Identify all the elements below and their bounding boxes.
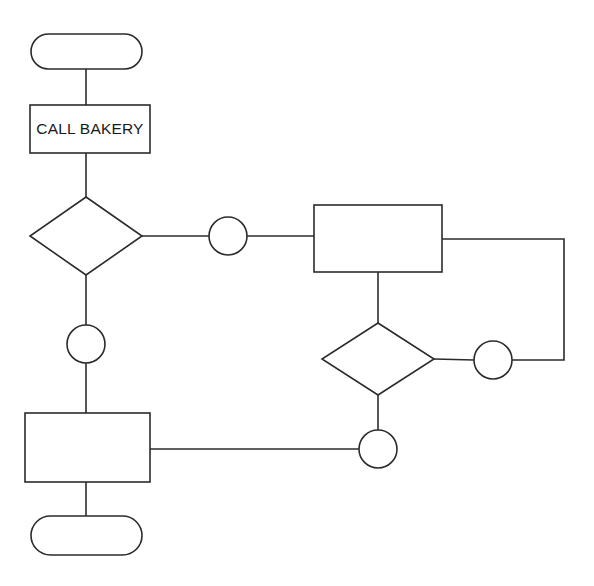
- node-connector-left-mid[interactable]: [67, 325, 105, 363]
- decision-right-shape[interactable]: [322, 323, 434, 395]
- end-terminal-shape[interactable]: [31, 516, 142, 555]
- decision-left-shape[interactable]: [30, 197, 142, 275]
- node-start-terminal[interactable]: [31, 34, 142, 69]
- process-right-top-shape[interactable]: [314, 205, 442, 272]
- node-end-terminal[interactable]: [31, 516, 142, 555]
- edge-decision-right-to-connector-right: [434, 359, 474, 360]
- connector-left-top-shape[interactable]: [209, 217, 247, 255]
- node-layer: CALL BAKERY: [25, 34, 512, 555]
- node-process-left-bottom[interactable]: [25, 413, 150, 482]
- node-connector-left-top[interactable]: [209, 217, 247, 255]
- node-connector-bottom[interactable]: [359, 430, 397, 468]
- node-decision-right[interactable]: [322, 323, 434, 395]
- edge-layer: [86, 69, 564, 516]
- call-bakery-process-label: CALL BAKERY: [36, 120, 143, 137]
- node-process-right-top[interactable]: [314, 205, 442, 272]
- node-call-bakery-process[interactable]: CALL BAKERY: [30, 105, 150, 153]
- process-left-bottom-shape[interactable]: [25, 413, 150, 482]
- node-connector-right[interactable]: [474, 341, 512, 379]
- node-decision-left[interactable]: [30, 197, 142, 275]
- connector-left-mid-shape[interactable]: [67, 325, 105, 363]
- edge-connector-right-loop-back: [442, 239, 564, 360]
- flowchart-diagram: CALL BAKERY: [0, 0, 594, 586]
- connector-bottom-shape[interactable]: [359, 430, 397, 468]
- connector-right-shape[interactable]: [474, 341, 512, 379]
- flowchart-canvas: CALL BAKERY: [0, 0, 594, 586]
- start-terminal-shape[interactable]: [31, 34, 142, 69]
